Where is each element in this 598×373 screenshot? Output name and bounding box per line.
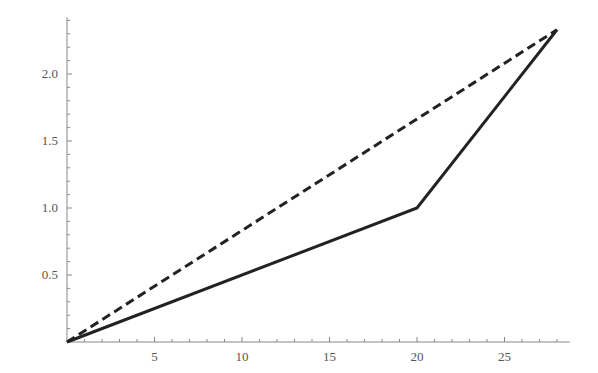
x-tick-label: 10 [236,349,249,364]
x-tick-label: 20 [411,349,424,364]
x-tick-label: 5 [151,349,158,364]
y-tick-label: 2.0 [42,66,58,81]
y-tick-label: 1.5 [42,133,58,148]
series-dashed-line [67,30,557,342]
series-layer [67,30,557,342]
x-tick-label: 15 [323,349,336,364]
x-tick-label: 25 [498,349,511,364]
y-tick-label: 0.5 [42,267,58,282]
y-tick-label: 1.0 [42,200,58,215]
line-chart: 5101520250.51.01.52.0 [0,0,598,373]
